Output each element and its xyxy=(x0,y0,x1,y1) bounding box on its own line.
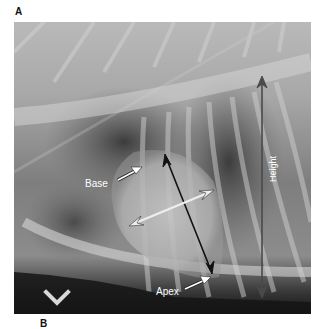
chevron-marker-icon xyxy=(46,292,68,303)
panel-label-b: B xyxy=(40,318,47,329)
long-axis-arrow xyxy=(163,154,214,274)
apex-pointer-arrow xyxy=(185,276,211,289)
height-arrow xyxy=(257,76,267,298)
base-label: Base xyxy=(85,178,108,189)
height-label: Height xyxy=(268,155,278,182)
apex-label: Apex xyxy=(156,286,179,297)
base-pointer-arrow xyxy=(118,167,142,180)
short-axis-arrow xyxy=(129,190,214,226)
